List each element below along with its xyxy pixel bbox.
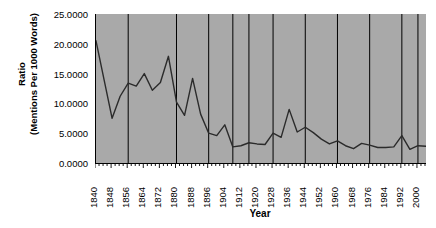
x-tick-label: 1920 bbox=[249, 187, 260, 208]
x-tick-label: 1928 bbox=[265, 187, 276, 208]
x-tick-label: 1944 bbox=[297, 187, 308, 208]
chart-container: Ratio (Mentions Per 1000 Words) 25.00002… bbox=[0, 0, 436, 228]
vertical-gridlines bbox=[128, 14, 418, 163]
y-axis-tick-labels: 25.000020.000015.000010.00005.00000.0000 bbox=[34, 0, 92, 175]
y-axis-title-line1: Ratio bbox=[16, 0, 28, 154]
x-tick-label: 1880 bbox=[168, 187, 179, 208]
y-tick-label: 0.0000 bbox=[59, 158, 88, 169]
y-tick-label: 25.0000 bbox=[54, 9, 88, 20]
x-tick-label: 2000 bbox=[410, 187, 421, 208]
data-series-line bbox=[96, 41, 426, 149]
x-tick-label: 1976 bbox=[362, 187, 373, 208]
x-tick-label: 1840 bbox=[88, 187, 99, 208]
x-tick-label: 1872 bbox=[152, 187, 163, 208]
y-axis-title: Ratio (Mentions Per 1000 Words) bbox=[0, 0, 36, 180]
x-tick-label: 1856 bbox=[120, 187, 131, 208]
x-tick-label: 1848 bbox=[104, 187, 115, 208]
plot-svg bbox=[96, 14, 426, 163]
x-tick-label: 1888 bbox=[185, 187, 196, 208]
x-tick-label: 1984 bbox=[378, 187, 389, 208]
x-tick-label: 1904 bbox=[217, 187, 228, 208]
y-tick-label: 20.0000 bbox=[54, 38, 88, 49]
x-tick-label: 1896 bbox=[201, 187, 212, 208]
y-tick-label: 10.0000 bbox=[54, 98, 88, 109]
x-tick-label: 1912 bbox=[233, 187, 244, 208]
x-tick-label: 1936 bbox=[281, 187, 292, 208]
x-tick-label: 1968 bbox=[346, 187, 357, 208]
plot-area bbox=[95, 14, 426, 164]
x-axis-title: Year bbox=[95, 208, 425, 219]
x-axis-tick-labels: 1840184818561864187218801888189619041912… bbox=[95, 164, 435, 208]
x-tick-label: 1864 bbox=[136, 187, 147, 208]
y-tick-label: 5.0000 bbox=[59, 128, 88, 139]
y-tick-label: 15.0000 bbox=[54, 68, 88, 79]
x-tick-label: 1960 bbox=[329, 187, 340, 208]
x-tick-label: 1992 bbox=[394, 187, 405, 208]
x-tick-label: 1952 bbox=[313, 187, 324, 208]
